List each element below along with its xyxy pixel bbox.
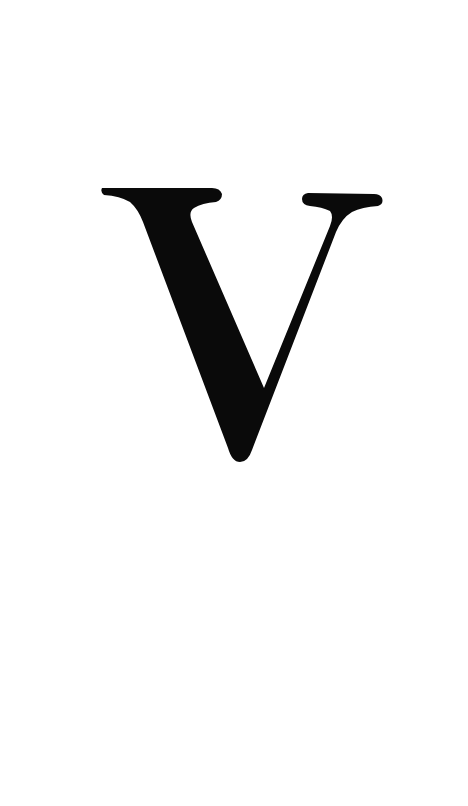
app-logo: V <box>98 182 384 466</box>
splash-screen: V <box>0 0 468 806</box>
serif-v-logo-icon <box>98 182 384 466</box>
